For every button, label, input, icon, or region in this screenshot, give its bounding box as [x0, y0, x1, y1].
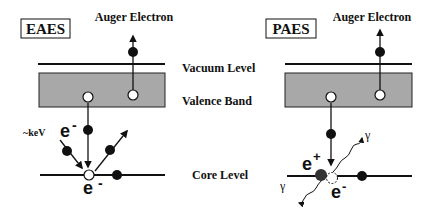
eaes-core-electron [112, 170, 122, 180]
paes-positron [315, 169, 327, 181]
eaes-scattered-electron [105, 145, 115, 155]
eaes-auger-electron [128, 47, 138, 57]
paes-valence-hole-left [326, 92, 336, 102]
eaes-valence-hole-left [83, 92, 93, 102]
paes-valence-hole-right [375, 90, 385, 100]
paes-positron-e: e [302, 154, 312, 174]
eaes-valence-band [39, 73, 165, 107]
paes-gamma-ray-down [299, 180, 322, 203]
paes-core-electron [357, 171, 367, 181]
eaes-incident-e: e [60, 121, 70, 141]
paes-auger-label: Auger Electron [333, 10, 412, 24]
paes-gamma-ray-up [333, 138, 362, 172]
paes-electron-charge: - [342, 179, 346, 194]
eaes-core-charge: - [98, 175, 103, 191]
core-level-label: Core Level [192, 168, 249, 182]
paes-gamma-down-label: γ [279, 179, 286, 193]
eaes-auger-label: Auger Electron [95, 10, 174, 24]
paes-gamma-up-label: γ [364, 128, 371, 142]
paes-panel: PAES Auger Electron γ γ e + e - [266, 10, 412, 203]
eaes-valence-hole-right [128, 90, 138, 100]
eaes-falling-electron [83, 125, 93, 135]
eaes-core-e: e [83, 178, 93, 198]
eaes-panel: EAES Auger Electron ~keV e - e - [21, 10, 174, 198]
eaes-incident-charge: - [72, 117, 77, 133]
eaes-title: EAES [26, 21, 65, 37]
paes-positron-charge: + [313, 149, 321, 164]
paes-auger-electron [375, 47, 385, 57]
vacuum-level-label: Vacuum Level [182, 61, 256, 75]
valence-band-label: Valence Band [182, 94, 252, 108]
paes-title: PAES [272, 21, 309, 37]
eaes-kev-label: ~keV [23, 127, 46, 138]
eaes-incident-electron [62, 146, 72, 156]
paes-falling-electron [326, 129, 336, 139]
paes-valence-band [285, 73, 412, 107]
paes-electron-e: e [331, 182, 341, 202]
auger-diagram: EAES Auger Electron ~keV e - e - Vacuum … [0, 0, 431, 212]
